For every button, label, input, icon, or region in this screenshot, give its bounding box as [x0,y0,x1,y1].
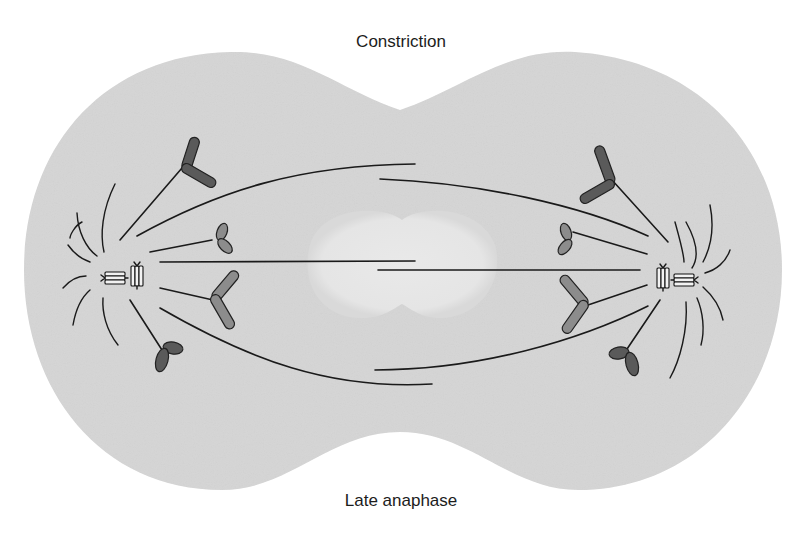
late-anaphase-label: Late anaphase [0,491,802,511]
anaphase-diagram [0,0,802,534]
constriction-label: Constriction [0,32,802,52]
central-zone [307,211,497,318]
centriole-icon [131,262,143,289]
centriole-icon [671,274,698,286]
centriole-icon [101,272,128,284]
centriole-icon [657,264,669,291]
